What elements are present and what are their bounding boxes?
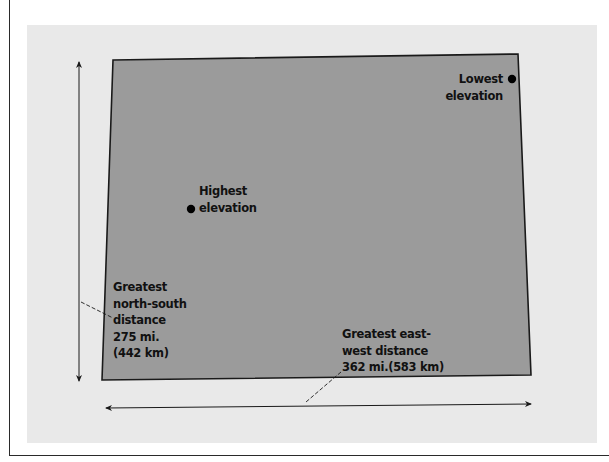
east-west-line-1: Greatest east- bbox=[342, 326, 444, 343]
highest-elevation-line-2: elevation bbox=[199, 200, 257, 217]
highest-elevation-line-1: Highest bbox=[199, 183, 257, 200]
lowest-elevation-line-2: elevation bbox=[445, 88, 503, 105]
north-south-line-5: (442 km) bbox=[113, 345, 187, 362]
lowest-elevation-marker-icon bbox=[508, 75, 516, 83]
lowest-elevation-line-1: Lowest bbox=[445, 71, 503, 88]
north-south-line-3: distance bbox=[113, 312, 187, 329]
east-west-line-3: 362 mi.(583 km) bbox=[342, 359, 444, 376]
highest-elevation-label: Highest elevation bbox=[199, 183, 257, 216]
highest-elevation-marker-icon bbox=[187, 205, 195, 213]
north-south-line-1: Greatest bbox=[113, 279, 187, 296]
north-south-line-2: north-south bbox=[113, 296, 187, 313]
east-west-distance-label: Greatest east- west distance 362 mi.(583… bbox=[342, 326, 444, 376]
east-west-arrow bbox=[106, 404, 531, 408]
lowest-elevation-label: Lowest elevation bbox=[445, 71, 503, 104]
north-south-line-4: 275 mi. bbox=[113, 329, 187, 346]
north-south-distance-label: Greatest north-south distance 275 mi. (4… bbox=[113, 279, 187, 362]
east-west-line-2: west distance bbox=[342, 343, 444, 360]
